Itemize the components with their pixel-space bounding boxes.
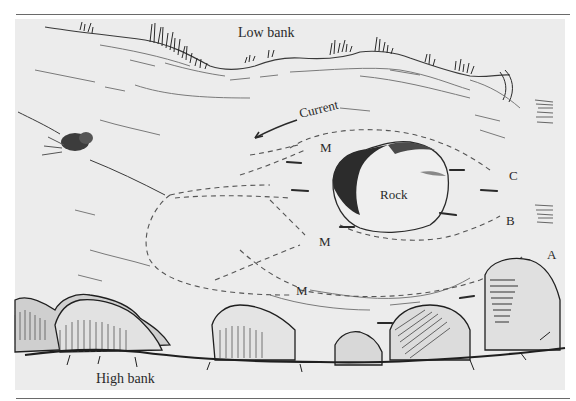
rock-label: Rock xyxy=(380,188,407,201)
dashed-fish-paths xyxy=(146,130,525,297)
marker-m-top: M xyxy=(320,141,332,154)
stream-illustration xyxy=(0,0,576,401)
high-bank-boulders xyxy=(15,258,565,372)
right-edge-hatching xyxy=(535,100,553,223)
animal-figure xyxy=(42,132,93,155)
current-arrow xyxy=(255,120,297,138)
low-bank-vegetation xyxy=(80,22,512,102)
marker-m-bottom: M xyxy=(296,284,308,297)
high-bank-label: High bank xyxy=(96,372,155,386)
bottom-rule xyxy=(16,398,570,399)
lane-c-label: C xyxy=(509,169,518,182)
lane-a-label: A xyxy=(547,248,556,261)
marker-m-middle: M xyxy=(319,235,331,248)
low-bank-label: Low bank xyxy=(238,26,294,40)
lane-b-label: B xyxy=(506,214,515,227)
left-bank-line xyxy=(18,112,165,195)
